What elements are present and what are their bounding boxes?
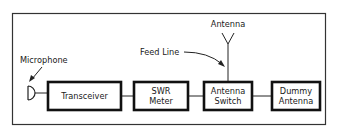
dummy-antenna-block: Dummy Antenna [272, 82, 320, 110]
antenna-switch-label-line1: Antenna [211, 86, 245, 96]
transceiver-label: Transceiver [60, 91, 108, 101]
dummy-antenna-label-line2: Antenna [279, 96, 313, 106]
antenna-icon [222, 33, 234, 44]
antenna-switch-block: Antenna Switch [204, 82, 252, 110]
antenna-switch-label-line2: Switch [214, 96, 241, 106]
swr-meter-label-line1: SWR [152, 86, 171, 96]
microphone-label: Microphone [20, 55, 68, 65]
dummy-antenna-label-line1: Dummy [280, 86, 312, 96]
microphone-arrow-icon [29, 67, 42, 82]
feed-line-label: Feed Line [140, 47, 179, 57]
feed-line-arrow-icon [184, 52, 225, 67]
block-diagram: Microphone Transceiver SWR Meter Antenna… [0, 0, 341, 127]
antenna-label: Antenna [211, 19, 245, 29]
transceiver-block: Transceiver [48, 82, 121, 110]
microphone-icon [28, 86, 35, 100]
swr-meter-label-line2: Meter [149, 96, 173, 106]
swr-meter-block: SWR Meter [134, 82, 188, 110]
